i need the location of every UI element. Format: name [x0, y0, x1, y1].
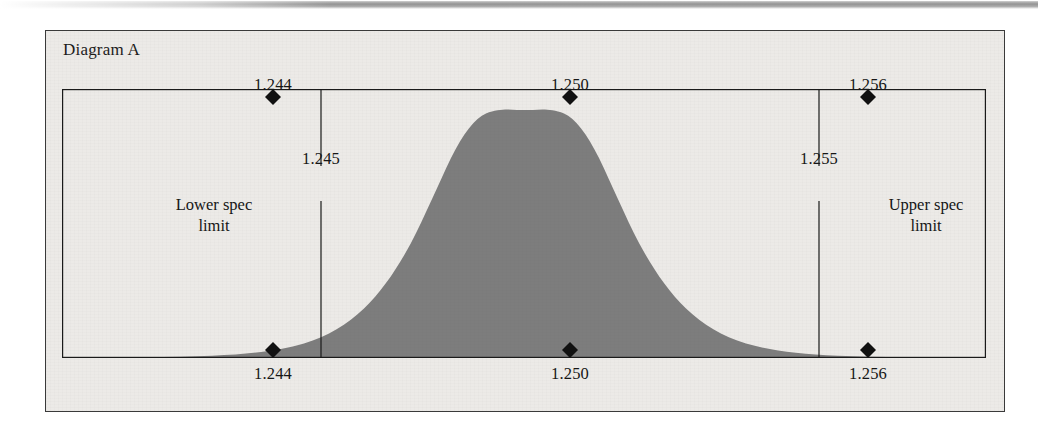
- upper-spec-limit-line2: limit: [889, 215, 964, 236]
- lower-spec-limit-label: Lower spec limit: [176, 194, 253, 236]
- label-gridline-1255: 1.255: [800, 149, 838, 169]
- scan-artifact-band: [0, 0, 1038, 9]
- lower-spec-limit-line2: limit: [176, 215, 253, 236]
- lower-spec-limit-line1: Lower spec: [176, 194, 253, 215]
- label-gridline-1245: 1.245: [302, 149, 340, 169]
- label-bottom-1250: 1.250: [551, 364, 589, 384]
- label-top-1250: 1.250: [551, 75, 589, 95]
- label-top-1244: 1.244: [254, 75, 292, 95]
- label-bottom-1244: 1.244: [254, 364, 292, 384]
- scan-band-taper: [0, 0, 330, 9]
- diagram-title: Diagram A: [63, 40, 140, 60]
- figure-frame: Diagram A: [45, 30, 1005, 412]
- upper-spec-limit-label: Upper spec limit: [889, 194, 964, 236]
- upper-spec-limit-line1: Upper spec: [889, 194, 964, 215]
- label-top-1256: 1.256: [849, 75, 887, 95]
- marker-diamond-bottom-high: [860, 342, 876, 358]
- label-bottom-1256: 1.256: [849, 364, 887, 384]
